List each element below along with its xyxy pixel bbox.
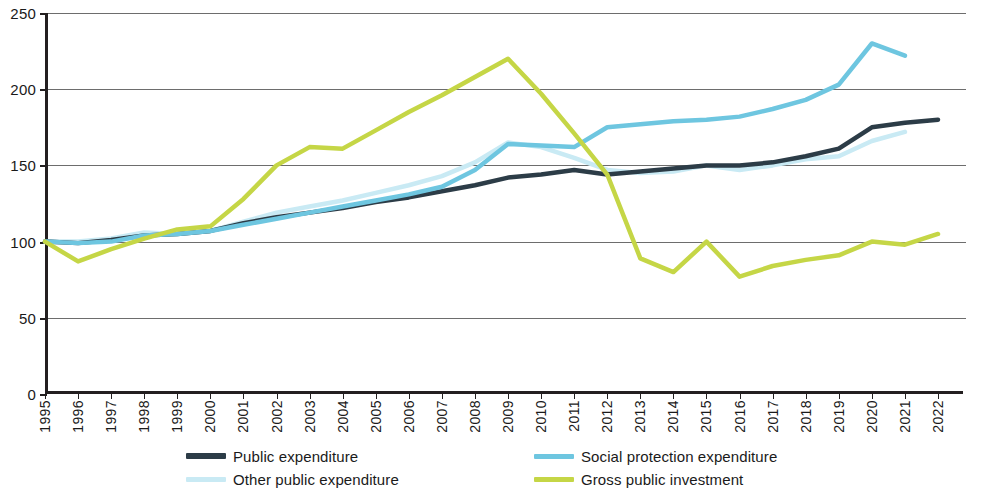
grid-line [48, 89, 966, 90]
y-axis-tick-label: 150 [10, 157, 36, 174]
x-axis-tick-mark [45, 394, 46, 399]
legend-label: Other public expenditure [233, 471, 399, 488]
y-axis-tick-mark [40, 165, 47, 167]
x-axis-tick-mark [409, 394, 410, 399]
x-axis-tick-mark [310, 394, 311, 399]
x-axis-tick-label: 2004 [335, 400, 351, 433]
x-axis-tick-mark [574, 394, 575, 399]
x-axis-tick-mark [541, 394, 542, 399]
plot-area [45, 13, 963, 394]
grid-line [48, 165, 966, 166]
x-axis-tick-label: 2005 [368, 400, 384, 433]
x-axis-tick-label: 2006 [401, 400, 417, 433]
legend-swatch-icon [186, 477, 226, 482]
x-axis-tick-label: 2021 [897, 400, 913, 433]
legend-label: Social protection expenditure [581, 448, 777, 465]
legend-item-public-expenditure[interactable]: Public expenditure [186, 446, 358, 466]
x-axis-tick-label: 2022 [930, 400, 946, 433]
x-axis-tick-mark [78, 394, 79, 399]
x-axis-tick-mark [640, 394, 641, 399]
line-chart: 050100150200250 199519961997199819992000… [0, 0, 988, 490]
legend-label: Gross public investment [581, 471, 743, 488]
x-axis-tick-label: 1996 [70, 400, 86, 433]
x-axis-tick-label: 2002 [269, 400, 285, 433]
x-axis-tick-mark [210, 394, 211, 399]
x-axis-tick-mark [905, 394, 906, 399]
x-axis-tick-mark [277, 394, 278, 399]
grid-line [48, 13, 966, 14]
grid-line [48, 318, 966, 319]
y-axis-tick-mark [40, 242, 47, 244]
x-axis-tick-mark [938, 394, 939, 399]
x-axis-tick-label: 2012 [599, 400, 615, 433]
y-axis-tick-label: 200 [10, 81, 36, 98]
legend-item-gross-public-investment[interactable]: Gross public investment [534, 469, 743, 489]
x-axis-tick-label: 2016 [732, 400, 748, 433]
legend-item-other-public-expenditure[interactable]: Other public expenditure [186, 469, 399, 489]
x-axis-tick-mark [343, 394, 344, 399]
x-axis-tick-mark [475, 394, 476, 399]
y-axis-tick-label: 100 [10, 233, 36, 250]
x-axis-tick-label: 2008 [467, 400, 483, 433]
x-axis-tick-mark [607, 394, 608, 399]
y-axis: 050100150200250 [0, 0, 36, 410]
x-axis-tick-label: 2018 [798, 400, 814, 433]
x-axis-tick-label: 1995 [37, 400, 53, 433]
x-axis-tick-mark [243, 394, 244, 399]
x-axis-tick-label: 2010 [533, 400, 549, 433]
x-axis-tick-mark [839, 394, 840, 399]
legend-swatch-icon [186, 453, 226, 459]
legend-swatch-icon [534, 454, 574, 459]
x-axis-tick-mark [442, 394, 443, 399]
x-axis-tick-mark [773, 394, 774, 399]
chart-legend: Public expenditure Other public expendit… [186, 446, 886, 490]
x-axis: 1995199619971998199920002001200220032004… [0, 400, 988, 446]
y-axis-tick-mark [40, 89, 47, 91]
x-axis-tick-label: 1998 [136, 400, 152, 433]
x-axis-tick-mark [111, 394, 112, 399]
x-axis-tick-mark [376, 394, 377, 399]
y-axis-tick-mark [40, 318, 47, 320]
x-axis-tick-label: 2007 [434, 400, 450, 433]
x-axis-tick-mark [706, 394, 707, 399]
legend-label: Public expenditure [233, 448, 358, 465]
x-axis-tick-label: 2020 [864, 400, 880, 433]
legend-item-social-protection-expenditure[interactable]: Social protection expenditure [534, 446, 777, 466]
x-axis-tick-label: 2000 [202, 400, 218, 433]
x-axis-tick-label: 2017 [765, 400, 781, 433]
x-axis-tick-mark [177, 394, 178, 399]
x-axis-tick-label: 2019 [831, 400, 847, 433]
x-axis-tick-mark [508, 394, 509, 399]
y-axis-tick-label: 50 [19, 309, 36, 326]
x-axis-tick-label: 2003 [302, 400, 318, 433]
x-axis-tick-label: 1999 [169, 400, 185, 433]
x-axis-tick-mark [806, 394, 807, 399]
x-axis-tick-mark [740, 394, 741, 399]
x-axis-tick-mark [673, 394, 674, 399]
x-axis-tick-label: 2013 [632, 400, 648, 433]
y-axis-tick-mark [40, 13, 47, 15]
y-axis-tick-label: 250 [10, 5, 36, 22]
grid-line [48, 242, 966, 243]
x-axis-tick-label: 2011 [566, 400, 582, 432]
x-axis-tick-label: 2001 [235, 400, 251, 433]
legend-swatch-icon [534, 477, 574, 482]
x-axis-tick-label: 2014 [665, 400, 681, 433]
x-axis-tick-label: 2015 [698, 400, 714, 433]
x-axis-tick-label: 1997 [103, 400, 119, 433]
x-axis-tick-mark [872, 394, 873, 399]
x-axis-tick-label: 2009 [500, 400, 516, 433]
x-axis-tick-mark [144, 394, 145, 399]
